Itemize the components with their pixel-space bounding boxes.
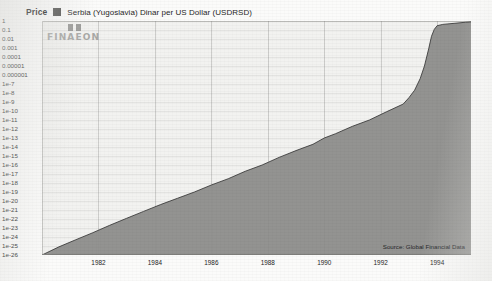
x-axis-tick-labels: 1982198419861988199019921994 xyxy=(42,259,471,273)
x-tick-label: 1994 xyxy=(430,259,444,266)
y-tick-label: 1e-14 xyxy=(2,144,38,150)
x-tick-label: 1984 xyxy=(148,259,162,266)
legend-series-label: Serbia (Yugoslavia) Dinar per US Dollar … xyxy=(67,8,252,17)
y-tick-label: 1e-7 xyxy=(2,81,38,87)
series-fill xyxy=(42,22,471,255)
y-tick-label: 0.00001 xyxy=(2,63,38,69)
x-tick-label: 1988 xyxy=(261,259,275,266)
x-tick-label: 1990 xyxy=(317,259,331,266)
source-attribution: Source: Global Financial Data xyxy=(383,243,465,250)
y-tick-label: 0.01 xyxy=(2,36,38,42)
y-tick-label: 1e-20 xyxy=(2,198,38,204)
y-tick-label: 1e-24 xyxy=(2,234,38,240)
y-tick-label: 1e-21 xyxy=(2,207,38,213)
y-tick-label: 1 xyxy=(2,18,38,24)
chart-screenshot: Price Serbia (Yugoslavia) Dinar per US D… xyxy=(0,0,492,281)
chart-legend: Price Serbia (Yugoslavia) Dinar per US D… xyxy=(26,7,252,17)
y-tick-label: 1e-19 xyxy=(2,189,38,195)
y-tick-label: 1e-18 xyxy=(2,180,38,186)
y-tick-label: 1e-17 xyxy=(2,171,38,177)
x-tick-label: 1982 xyxy=(91,259,105,266)
y-tick-label: 1e-13 xyxy=(2,135,38,141)
plot-area: Source: Global Financial Data xyxy=(42,21,471,255)
y-tick-label: 0.001 xyxy=(2,45,38,51)
x-tick-label: 1992 xyxy=(374,259,388,266)
y-tick-label: 1e-26 xyxy=(2,252,38,258)
y-tick-label: 1e-15 xyxy=(2,153,38,159)
series-area-usdrsd xyxy=(42,21,471,255)
y-tick-label: 1e-9 xyxy=(2,99,38,105)
y-tick-label: 1e-22 xyxy=(2,216,38,222)
y-tick-label: 1e-10 xyxy=(2,108,38,114)
y-tick-label: 0.0001 xyxy=(2,54,38,60)
y-tick-label: 1e-11 xyxy=(2,117,38,123)
y-tick-label: 1e-16 xyxy=(2,162,38,168)
legend-color-swatch xyxy=(53,8,61,16)
y-tick-label: 1e-23 xyxy=(2,225,38,231)
y-tick-label: 1e-12 xyxy=(2,126,38,132)
plot-border-bottom xyxy=(42,254,471,255)
y-tick-label: 1e-8 xyxy=(2,90,38,96)
y-axis-title: Price xyxy=(26,7,47,17)
y-tick-label: 0.1 xyxy=(2,27,38,33)
y-tick-label: 0.000001 xyxy=(2,72,38,78)
y-tick-label: 1e-25 xyxy=(2,243,38,249)
x-tick-label: 1986 xyxy=(204,259,218,266)
y-axis-tick-labels: 10.10.010.0010.00010.000010.0000011e-71e… xyxy=(0,21,40,255)
